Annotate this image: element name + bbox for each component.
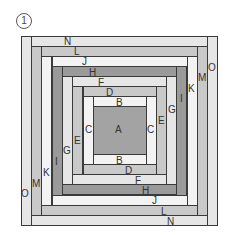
strip-l-bottom bbox=[41, 205, 198, 216]
strip-label: F bbox=[98, 78, 104, 88]
strip-f-bottom bbox=[72, 174, 167, 185]
strip-label: A bbox=[115, 125, 122, 135]
strip-label: H bbox=[142, 186, 149, 196]
strip-label: M bbox=[198, 73, 206, 83]
strip-k-right bbox=[187, 56, 198, 206]
strip-label: C bbox=[147, 125, 154, 135]
strip-label: N bbox=[64, 37, 71, 47]
strip-label: I bbox=[55, 157, 58, 167]
strip-label: J bbox=[82, 57, 87, 67]
strip-i-right bbox=[176, 66, 187, 196]
strip-g-right bbox=[166, 76, 177, 185]
figure-number-badge: 1 bbox=[16, 13, 32, 29]
strip-label: N bbox=[167, 217, 174, 227]
strip-label: O bbox=[21, 189, 29, 199]
strip-e-right bbox=[156, 86, 167, 175]
strip-label: K bbox=[188, 84, 195, 94]
strip-label: B bbox=[116, 156, 123, 166]
strip-n-bottom bbox=[31, 215, 208, 226]
strip-label: D bbox=[125, 166, 132, 176]
strip-label: E bbox=[158, 116, 165, 126]
strip-label: L bbox=[161, 207, 167, 217]
strip-label: C bbox=[85, 125, 92, 135]
strip-label: F bbox=[135, 176, 141, 186]
strip-e-left bbox=[72, 86, 83, 175]
strip-label: O bbox=[208, 63, 216, 73]
strip-label: E bbox=[74, 136, 81, 146]
strip-label: J bbox=[152, 196, 157, 206]
strip-label: D bbox=[106, 88, 113, 98]
strip-label: G bbox=[63, 146, 71, 156]
strip-label: L bbox=[74, 47, 80, 57]
strip-j-bottom bbox=[52, 195, 188, 206]
strip-label: M bbox=[32, 179, 40, 189]
strip-label: H bbox=[89, 68, 96, 78]
strip-label: B bbox=[116, 98, 123, 108]
strip-label: K bbox=[43, 168, 50, 178]
strip-k-left bbox=[41, 56, 52, 206]
strip-label: I bbox=[180, 94, 183, 104]
strip-h-bottom bbox=[62, 184, 177, 195]
strip-label: G bbox=[168, 105, 176, 115]
